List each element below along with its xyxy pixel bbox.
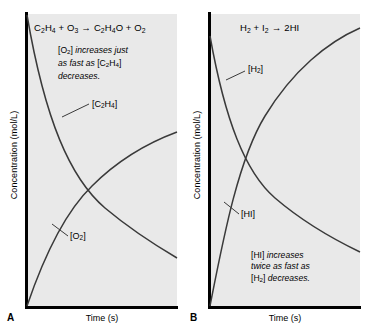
annotation-b-line-3: [H2] decreases. <box>251 273 310 286</box>
annotation-b: [HI] increases twice as fast as [H2] dec… <box>251 250 310 286</box>
leader-line-o2 <box>52 224 68 236</box>
curve-label-hi: [HI] <box>241 209 255 219</box>
equation-a: C2H4 + O3→C2H4O + O2 <box>34 22 146 34</box>
x-axis-label-a: Time (s) <box>27 313 177 323</box>
equation-b: H2 + I2→2HI <box>240 22 299 34</box>
annotation-a-line-3: decreases. <box>58 71 128 82</box>
curve-h2 <box>210 36 360 252</box>
panel-a: C2H4 + O3→C2H4O + O2 [O2] increases just… <box>0 0 183 336</box>
equation-a-products: C2H4O + O2 <box>94 22 146 33</box>
annotation-a-line-2: as fast as [C2H4] <box>58 58 128 71</box>
annotation-b-line-1: [HI] increases <box>251 250 310 261</box>
annotation-b-line-2: twice as fast as <box>251 261 310 272</box>
curve-label-c2h4: [C2H4] <box>92 99 117 109</box>
equation-a-reactants: C2H4 + O3 <box>34 22 78 33</box>
curves-b <box>183 0 366 336</box>
panel-letter-b: B <box>190 312 197 323</box>
x-axis-label-b: Time (s) <box>210 313 360 323</box>
annotation-a: [O2] increases just as fast as [C2H4] de… <box>58 45 128 82</box>
reaction-arrow-icon: → <box>78 22 94 33</box>
equation-b-reactants: H2 + I2 <box>240 22 269 33</box>
y-axis-label-b: Concentration (mol/L) <box>192 85 202 225</box>
leader-line-c2h4 <box>62 104 89 117</box>
equation-b-products: 2HI <box>284 22 299 33</box>
reaction-arrow-icon: → <box>269 22 285 33</box>
reaction-rate-figure: C2H4 + O3→C2H4O + O2 [O2] increases just… <box>0 0 366 336</box>
annotation-a-line-1: [O2] increases just <box>58 45 128 58</box>
leader-line-h2 <box>226 71 245 80</box>
curve-o2 <box>27 132 177 306</box>
curve-label-h2: [H2] <box>248 64 263 74</box>
panel-letter-a: A <box>7 312 14 323</box>
y-axis-label-a: Concentration (mol/L) <box>9 85 19 225</box>
curve-label-o2: [O2] <box>70 231 86 241</box>
panel-b: H2 + I2→2HI [HI] increases twice as fast… <box>183 0 366 336</box>
